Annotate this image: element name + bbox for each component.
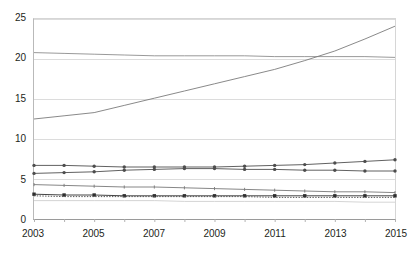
- line-series-8-faint-lowest: [34, 201, 395, 203]
- y-tick-label: 0: [0, 215, 26, 225]
- marker-series-4-mid-flat: [243, 168, 246, 171]
- marker-series-3-mid-rising: [273, 164, 276, 167]
- x-tick-label: 2015: [376, 229, 411, 239]
- series-lines: [34, 19, 395, 219]
- marker-series-3-mid-rising: [393, 158, 396, 161]
- marker-series-4-mid-flat: [32, 172, 35, 175]
- x-tick-label: 2003: [13, 229, 53, 239]
- marker-series-4-mid-flat: [62, 171, 65, 174]
- x-tick-label: 2011: [255, 229, 295, 239]
- marker-series-4-mid-flat: [273, 168, 276, 171]
- marker-series-3-mid-rising: [62, 164, 65, 167]
- plot-area: [33, 18, 396, 220]
- x-tick-label: 2005: [74, 229, 114, 239]
- marker-series-3-mid-rising: [363, 160, 366, 163]
- x-tick-label: 2007: [134, 229, 174, 239]
- line-series-1-flat-high: [34, 53, 395, 58]
- y-tick-label: 5: [0, 175, 26, 185]
- marker-series-3-mid-rising: [92, 165, 95, 168]
- marker-series-4-mid-flat: [123, 169, 126, 172]
- marker-series-4-mid-flat: [183, 167, 186, 170]
- marker-series-4-mid-flat: [333, 169, 336, 172]
- y-tick-label: 25: [0, 13, 26, 23]
- marker-series-4-mid-flat: [213, 167, 216, 170]
- x-tick-label: 2009: [195, 229, 235, 239]
- marker-series-4-mid-flat: [363, 169, 366, 172]
- marker-series-3-mid-rising: [32, 164, 35, 167]
- marker-series-4-mid-flat: [393, 169, 396, 172]
- marker-series-3-mid-rising: [243, 165, 246, 168]
- marker-series-4-mid-flat: [92, 170, 95, 173]
- y-tick-label: 15: [0, 94, 26, 104]
- y-tick-label: 10: [0, 134, 26, 144]
- marker-series-4-mid-flat: [153, 168, 156, 171]
- line-chart: 0510152025 2003200520072009201120132015: [0, 0, 411, 253]
- marker-series-3-mid-rising: [303, 163, 306, 166]
- line-series-2-rising-steep: [34, 26, 395, 119]
- marker-series-3-mid-rising: [123, 165, 126, 168]
- marker-series-4-mid-flat: [303, 169, 306, 172]
- marker-series-3-mid-rising: [333, 161, 336, 164]
- y-tick-label: 20: [0, 53, 26, 63]
- x-tick-label: 2013: [316, 229, 356, 239]
